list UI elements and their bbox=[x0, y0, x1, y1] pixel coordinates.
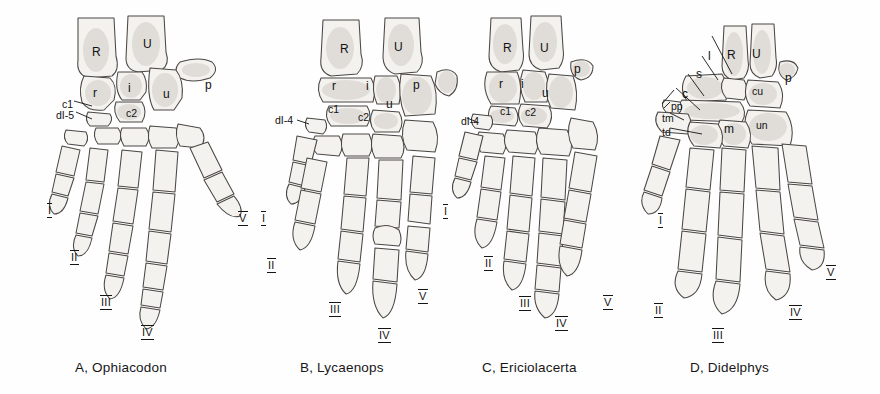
bone-label-b-i: i bbox=[366, 80, 369, 92]
bone-label-a-u: U bbox=[143, 38, 152, 50]
caption-d: D, Didelphys bbox=[690, 360, 769, 375]
bone-label-b-r: r bbox=[332, 80, 336, 92]
caption-b: B, Lycaenops bbox=[300, 360, 384, 375]
digit-numeral-a-iii: III bbox=[101, 297, 111, 308]
bone-label-b-di4: dI-4 bbox=[275, 115, 293, 126]
bone-label-d-cu: cu bbox=[752, 86, 763, 97]
digit-numeral-b-i: I bbox=[262, 213, 265, 224]
bone-label-a-c1: c1 bbox=[62, 99, 73, 110]
digit-numeral-d-v: V bbox=[827, 267, 835, 278]
caption-c: C, Ericiolacerta bbox=[482, 360, 577, 375]
bone-label-a-p: p bbox=[205, 79, 212, 91]
bone-label-d-un: un bbox=[756, 120, 768, 131]
bone-label-b-r: R bbox=[340, 43, 349, 55]
bone-label-b-c1: c1 bbox=[328, 104, 339, 115]
bone-label-a-u: u bbox=[163, 88, 170, 100]
bone-label-c-p: p bbox=[574, 63, 581, 75]
bone-label-d-m: m bbox=[724, 123, 734, 135]
bone-label-d-tm: tm bbox=[662, 113, 674, 124]
digit-numeral-d-iv: IV bbox=[790, 307, 801, 318]
figure-b-lycaenops bbox=[245, 0, 460, 345]
digit-numeral-a-v: V bbox=[239, 213, 247, 224]
bone-label-b-c2: c2 bbox=[358, 112, 369, 123]
bone-label-d-pp: pp bbox=[671, 101, 683, 112]
bone-label-d-p: p bbox=[785, 72, 792, 84]
bone-label-c-u: U bbox=[540, 42, 549, 54]
bone-label-b-p: p bbox=[413, 79, 420, 91]
digit-numeral-b-ii: II bbox=[268, 260, 275, 271]
illustration-plate: RUpriuc2c1dI-5RUriupc1c2dI-4RUpriuc1c2dI… bbox=[0, 0, 880, 394]
bone-label-d-s: s bbox=[696, 68, 702, 80]
bone-label-d-c: c bbox=[682, 88, 688, 100]
digit-numeral-b-v: V bbox=[419, 291, 427, 302]
bone-label-c-c2: c2 bbox=[525, 107, 536, 118]
bone-label-c-r: R bbox=[503, 42, 512, 54]
bone-label-d-td: td bbox=[662, 127, 671, 138]
bone-label-a-di5: dI-5 bbox=[56, 110, 74, 121]
digit-numeral-a-i: I bbox=[48, 205, 51, 216]
bone-label-d-l: l bbox=[708, 50, 711, 62]
digit-numeral-b-iii: III bbox=[330, 304, 340, 315]
bone-label-d-r: R bbox=[727, 49, 736, 61]
digit-numeral-b-iv: IV bbox=[379, 330, 390, 341]
digit-numeral-c-iv: IV bbox=[556, 318, 567, 329]
bone-label-a-c2: c2 bbox=[126, 108, 137, 119]
digit-numeral-a-ii: II bbox=[71, 252, 78, 263]
bone-label-a-i: i bbox=[128, 82, 131, 94]
bone-label-b-u: U bbox=[394, 41, 403, 53]
digit-numeral-c-v: V bbox=[604, 297, 612, 308]
bone-label-c-i: i bbox=[521, 78, 524, 90]
bone-label-a-r: r bbox=[93, 87, 97, 99]
bone-label-c-c1: c1 bbox=[500, 106, 511, 117]
bone-label-d-u: U bbox=[752, 48, 761, 60]
figure-a-ophiacodon bbox=[0, 0, 260, 345]
bone-label-c-u: u bbox=[542, 87, 549, 99]
bone-label-c-di4: dI-4 bbox=[461, 116, 479, 127]
digit-numeral-c-ii: II bbox=[485, 258, 492, 269]
digit-numeral-d-iii: III bbox=[713, 330, 723, 341]
digit-numeral-c-iii: III bbox=[520, 298, 530, 309]
digit-numeral-d-ii: II bbox=[655, 305, 662, 316]
digit-numeral-c-i: I bbox=[444, 206, 447, 217]
bone-label-c-r: r bbox=[499, 78, 503, 90]
bone-label-a-r: R bbox=[92, 46, 101, 58]
digit-numeral-d-i: I bbox=[659, 215, 662, 226]
digit-numeral-a-iv: IV bbox=[142, 327, 153, 338]
bone-label-b-u: u bbox=[386, 98, 393, 110]
caption-a: A, Ophiacodon bbox=[75, 360, 167, 375]
